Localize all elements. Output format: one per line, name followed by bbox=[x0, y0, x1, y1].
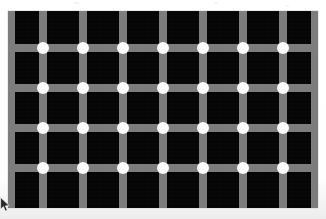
grid-line-vertical-6 bbox=[239, 11, 247, 208]
screenshot-root bbox=[0, 0, 326, 219]
grid-dot-r2-c1 bbox=[77, 122, 89, 134]
grid-dot-r0-c0 bbox=[37, 42, 49, 54]
grid-dot-r0-c6 bbox=[277, 42, 289, 54]
grid-line-vertical-3 bbox=[119, 11, 127, 208]
grid-dot-r2-c2 bbox=[117, 122, 129, 134]
grid-dot-r1-c6 bbox=[277, 82, 289, 94]
grid-dot-r2-c6 bbox=[277, 122, 289, 134]
grid-dot-r1-c2 bbox=[117, 82, 129, 94]
grid-dot-r3-c0 bbox=[37, 162, 49, 174]
grid-line-vertical-0 bbox=[8, 11, 15, 208]
grid-line-vertical-2 bbox=[79, 11, 87, 208]
grid-dot-r0-c5 bbox=[237, 42, 249, 54]
grid-line-vertical-5 bbox=[199, 11, 207, 208]
grid-dot-r3-c6 bbox=[277, 162, 289, 174]
grid-dot-r3-c4 bbox=[197, 162, 209, 174]
grid-dot-r1-c1 bbox=[77, 82, 89, 94]
mouse-pointer-icon bbox=[0, 197, 11, 212]
scintillating-grid-figure bbox=[8, 11, 318, 208]
grid-dot-r2-c4 bbox=[197, 122, 209, 134]
grid-dot-r0-c3 bbox=[157, 42, 169, 54]
grid-dot-r2-c0 bbox=[37, 122, 49, 134]
grid-dot-r1-c3 bbox=[157, 82, 169, 94]
grid-dot-r3-c3 bbox=[157, 162, 169, 174]
grid-dot-r3-c5 bbox=[237, 162, 249, 174]
grid-dot-r2-c3 bbox=[157, 122, 169, 134]
grid-line-vertical-1 bbox=[39, 11, 47, 208]
scan-speck-1 bbox=[214, 2, 218, 4]
grid-dot-r0-c4 bbox=[197, 42, 209, 54]
grid-dot-r1-c4 bbox=[197, 82, 209, 94]
grid-line-vertical-7 bbox=[279, 11, 287, 208]
grid-line-vertical-4 bbox=[159, 11, 167, 208]
grid-line-vertical-8 bbox=[311, 11, 318, 208]
grid-dot-r1-c5 bbox=[237, 82, 249, 94]
grid-dot-r2-c5 bbox=[237, 122, 249, 134]
scan-speck-2 bbox=[286, 5, 289, 7]
grid-dot-r0-c1 bbox=[77, 42, 89, 54]
scan-speck-0 bbox=[74, 2, 79, 4]
grid-dot-r3-c1 bbox=[77, 162, 89, 174]
grid-dot-r1-c0 bbox=[37, 82, 49, 94]
grid-dot-r3-c2 bbox=[117, 162, 129, 174]
grid-dot-r0-c2 bbox=[117, 42, 129, 54]
